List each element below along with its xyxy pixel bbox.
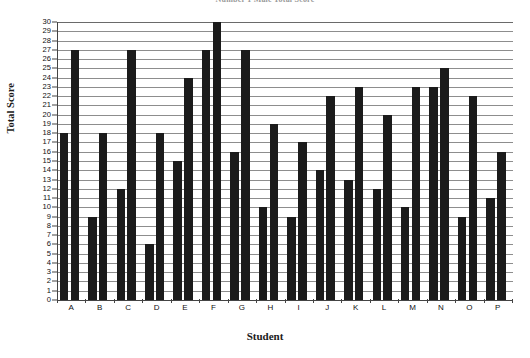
x-tick-mark <box>57 299 58 303</box>
bar <box>429 87 438 300</box>
bar <box>355 87 364 300</box>
x-tick-label: D <box>142 303 170 312</box>
bar-group <box>286 22 314 300</box>
bar <box>60 133 69 300</box>
bar-chart: Number 1 Male Total Score Total Score 01… <box>0 0 530 358</box>
y-tick-label: 18 <box>43 129 51 137</box>
x-tick-label: A <box>57 303 85 312</box>
bar <box>173 161 182 300</box>
x-axis-ticks: ABCDEFGHIJKLMNOP <box>57 303 512 319</box>
bar-group <box>229 22 257 300</box>
x-tick-mark <box>341 299 342 303</box>
y-tick-label: 8 <box>47 222 51 230</box>
x-tick-mark <box>484 299 485 303</box>
bar <box>486 198 495 300</box>
chart-title: Number 1 Male Total Score <box>0 0 530 4</box>
y-tick-label: 20 <box>43 111 51 119</box>
y-tick-label: 5 <box>47 250 51 258</box>
y-tick-label: 23 <box>43 83 51 91</box>
x-tick-mark <box>285 299 286 303</box>
bar <box>344 180 353 300</box>
y-tick-label: 13 <box>43 176 51 184</box>
bar <box>259 207 268 300</box>
x-tick-mark <box>256 299 257 303</box>
bar-group <box>371 22 399 300</box>
y-tick-label: 15 <box>43 157 51 165</box>
x-tick-label: F <box>199 303 227 312</box>
y-tick-label: 29 <box>43 27 51 35</box>
bar-group <box>143 22 171 300</box>
y-tick-label: 26 <box>43 55 51 63</box>
y-tick-label: 2 <box>47 278 51 286</box>
x-tick-mark <box>398 299 399 303</box>
bar <box>326 96 335 300</box>
x-tick-mark <box>370 299 371 303</box>
y-tick-label: 6 <box>47 241 51 249</box>
x-tick-mark <box>171 299 172 303</box>
x-tick-mark <box>228 299 229 303</box>
y-tick-label: 27 <box>43 46 51 54</box>
bar <box>184 78 193 300</box>
bar <box>117 189 126 300</box>
y-tick-label: 7 <box>47 231 51 239</box>
x-tick-mark <box>142 299 143 303</box>
x-tick-mark <box>427 299 428 303</box>
bar-group <box>314 22 342 300</box>
y-tick-label: 12 <box>43 185 51 193</box>
y-tick-label: 19 <box>43 120 51 128</box>
y-tick-label: 1 <box>47 287 51 295</box>
y-tick-label: 25 <box>43 65 51 73</box>
y-tick-label: 30 <box>43 18 51 26</box>
bar <box>202 50 211 300</box>
x-tick-label: M <box>398 303 426 312</box>
y-tick-label: 10 <box>43 204 51 212</box>
x-tick-label: I <box>285 303 313 312</box>
bar <box>287 217 296 300</box>
bar <box>156 133 165 300</box>
bar-group <box>428 22 456 300</box>
x-tick-mark <box>114 299 115 303</box>
bar <box>316 170 325 300</box>
y-tick-label: 11 <box>43 194 51 202</box>
bar-group <box>115 22 143 300</box>
bar-series-layer <box>58 22 513 300</box>
x-tick-label: L <box>370 303 398 312</box>
y-tick-label: 3 <box>47 268 51 276</box>
bar <box>298 142 307 300</box>
bar <box>497 152 506 300</box>
y-tick-label: 4 <box>47 259 51 267</box>
bar <box>401 207 410 300</box>
bar-group <box>342 22 370 300</box>
y-tick-label: 24 <box>43 74 51 82</box>
bar <box>373 189 382 300</box>
bar <box>71 50 80 300</box>
bar <box>412 87 421 300</box>
y-tick-label: 22 <box>43 92 51 100</box>
bar <box>99 133 108 300</box>
x-tick-label: H <box>256 303 284 312</box>
x-tick-label: P <box>484 303 512 312</box>
y-tick-label: 17 <box>43 139 51 147</box>
x-tick-label: N <box>427 303 455 312</box>
bar <box>127 50 136 300</box>
bar-group <box>172 22 200 300</box>
plot-area <box>57 22 513 301</box>
y-tick-label: 16 <box>43 148 51 156</box>
bar <box>458 217 467 300</box>
x-tick-mark <box>455 299 456 303</box>
y-axis-ticks: 0123456789101112131415161718192021222324… <box>0 22 57 300</box>
x-tick-mark <box>85 299 86 303</box>
bar <box>440 68 449 300</box>
bar-group <box>399 22 427 300</box>
bar <box>270 124 279 300</box>
x-tick-mark <box>512 299 513 303</box>
bar-group <box>456 22 484 300</box>
bar-group <box>86 22 114 300</box>
x-tick-label: J <box>313 303 341 312</box>
bar <box>469 96 478 300</box>
bar <box>230 152 239 300</box>
x-tick-label: B <box>85 303 113 312</box>
y-tick-label: 14 <box>43 166 51 174</box>
x-tick-label: E <box>171 303 199 312</box>
bar <box>145 244 154 300</box>
